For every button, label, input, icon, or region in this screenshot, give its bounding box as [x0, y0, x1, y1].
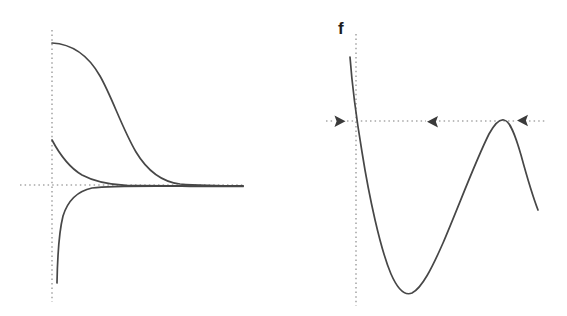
- decay-curves-panel: [0, 0, 283, 316]
- exponential-decay-curve: [52, 140, 243, 186]
- cubic-polynomial-curve: [350, 57, 538, 294]
- cubic-curve-panel: f: [283, 0, 567, 316]
- right-arrow-icon: [335, 116, 346, 128]
- function-label-f: f: [338, 19, 344, 38]
- negative-pole-curve: [57, 186, 243, 283]
- figure-root: f: [0, 0, 567, 316]
- left-arrow-icon-max: [517, 115, 528, 127]
- sigmoid-decay-curve: [52, 43, 243, 186]
- left-arrow-icon-mid: [427, 116, 438, 128]
